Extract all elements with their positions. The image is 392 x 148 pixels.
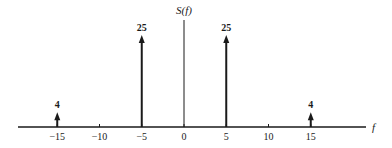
x-tick-label: 15 xyxy=(306,131,316,142)
impulse-value-label: 25 xyxy=(221,22,231,33)
y-axis-label: S(f) xyxy=(176,4,192,17)
axis-labels: −15−10−5051015425254S(f)f xyxy=(49,4,377,142)
impulse-spectrum-chart: −15−10−5051015425254S(f)f xyxy=(0,0,392,148)
arrow-head-icon xyxy=(54,112,60,120)
x-tick-label: 10 xyxy=(264,131,274,142)
impulse-value-label: 4 xyxy=(308,99,313,110)
impulse-value-label: 4 xyxy=(55,99,60,110)
arrow-head-icon xyxy=(139,35,145,43)
x-tick-label: −15 xyxy=(49,131,65,142)
axes xyxy=(18,20,366,127)
impulse-value-label: 25 xyxy=(137,22,147,33)
arrow-head-icon xyxy=(223,35,229,43)
x-tick-label: 0 xyxy=(182,131,187,142)
x-tick-label: −5 xyxy=(136,131,147,142)
x-tick-label: −10 xyxy=(92,131,108,142)
x-tick-label: 5 xyxy=(224,131,229,142)
arrow-head-icon xyxy=(308,112,314,120)
x-axis-label: f xyxy=(372,121,377,133)
